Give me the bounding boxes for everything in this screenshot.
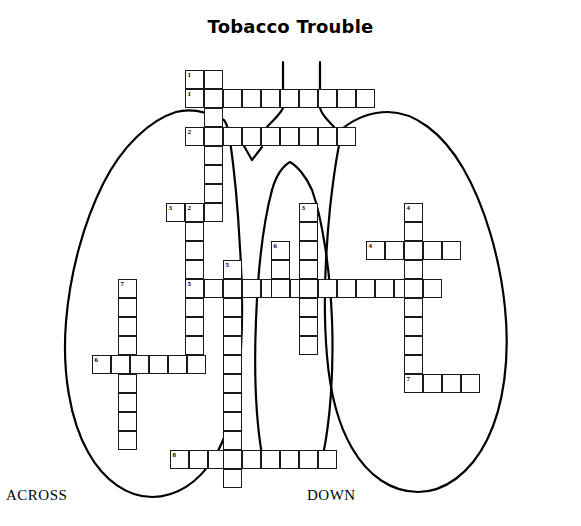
crossword-cell[interactable] — [299, 89, 318, 108]
crossword-cell[interactable] — [404, 241, 423, 260]
crossword-cell[interactable] — [385, 241, 404, 260]
crossword-cell[interactable] — [204, 184, 223, 203]
crossword-cell[interactable] — [404, 317, 423, 336]
crossword-cell[interactable]: 5 — [223, 260, 242, 279]
crossword-cell[interactable]: 3 — [299, 203, 318, 222]
crossword-cell[interactable] — [223, 336, 242, 355]
crossword-cell[interactable] — [185, 298, 204, 317]
crossword-cell[interactable] — [204, 127, 223, 146]
crossword-cell[interactable] — [204, 89, 223, 108]
crossword-cell[interactable]: 5 — [185, 279, 204, 298]
crossword-cell[interactable] — [204, 203, 223, 222]
crossword-cell[interactable] — [337, 127, 356, 146]
crossword-cell[interactable] — [404, 336, 423, 355]
crossword-cell[interactable]: 6 — [92, 355, 111, 374]
crossword-cell[interactable] — [204, 70, 223, 89]
crossword-cell[interactable] — [404, 298, 423, 317]
crossword-cell[interactable] — [242, 450, 261, 469]
crossword-cell[interactable] — [299, 298, 318, 317]
crossword-cell[interactable] — [299, 279, 318, 298]
crossword-cell[interactable] — [118, 431, 137, 450]
crossword-cell[interactable] — [187, 355, 206, 374]
crossword-cell[interactable] — [337, 89, 356, 108]
crossword-cell[interactable] — [299, 260, 318, 279]
crossword-cell[interactable]: 7 — [118, 279, 137, 298]
crossword-cell[interactable] — [261, 450, 280, 469]
crossword-cell[interactable]: 4 — [404, 203, 423, 222]
crossword-cell[interactable] — [223, 298, 242, 317]
crossword-cell[interactable] — [337, 279, 356, 298]
crossword-cell[interactable] — [404, 260, 423, 279]
crossword-cell[interactable] — [356, 279, 375, 298]
crossword-cell[interactable] — [299, 317, 318, 336]
crossword-cell[interactable] — [118, 298, 137, 317]
crossword-cell[interactable] — [118, 393, 137, 412]
crossword-cell[interactable] — [299, 336, 318, 355]
crossword-cell[interactable] — [118, 317, 137, 336]
crossword-cell[interactable] — [185, 317, 204, 336]
crossword-cell[interactable] — [242, 127, 261, 146]
crossword-cell[interactable] — [118, 336, 137, 355]
crossword-cell[interactable]: 1 — [185, 89, 204, 108]
crossword-cell[interactable] — [242, 279, 261, 298]
crossword-cell[interactable] — [223, 127, 242, 146]
crossword-cell[interactable] — [185, 336, 204, 355]
crossword-cell[interactable] — [356, 89, 375, 108]
crossword-cell[interactable]: 7 — [404, 374, 423, 393]
crossword-cell[interactable] — [261, 89, 280, 108]
crossword-cell[interactable] — [280, 450, 299, 469]
crossword-cell[interactable]: 2 — [185, 127, 204, 146]
crossword-cell[interactable] — [204, 279, 223, 298]
crossword-cell[interactable] — [223, 431, 242, 450]
crossword-cell[interactable] — [130, 355, 149, 374]
crossword-cell[interactable] — [118, 374, 137, 393]
crossword-cell[interactable] — [318, 279, 337, 298]
crossword-cell[interactable] — [461, 374, 480, 393]
crossword-cell[interactable] — [118, 412, 137, 431]
crossword-cell[interactable] — [168, 355, 187, 374]
crossword-cell[interactable] — [223, 355, 242, 374]
crossword-cell[interactable] — [280, 89, 299, 108]
crossword-cell[interactable] — [423, 279, 442, 298]
crossword-cell[interactable] — [280, 127, 299, 146]
crossword-cell[interactable] — [223, 89, 242, 108]
crossword-cell[interactable] — [242, 89, 261, 108]
crossword-cell[interactable] — [318, 89, 337, 108]
crossword-cell[interactable] — [442, 241, 461, 260]
crossword-cell[interactable] — [223, 469, 242, 488]
crossword-cell[interactable] — [223, 450, 242, 469]
crossword-cell[interactable] — [299, 450, 318, 469]
crossword-cell[interactable] — [204, 108, 223, 127]
crossword-cell[interactable] — [223, 393, 242, 412]
crossword-cell[interactable] — [318, 450, 337, 469]
crossword-cell[interactable] — [271, 260, 290, 279]
crossword-cell[interactable] — [261, 127, 280, 146]
crossword-cell[interactable] — [189, 450, 208, 469]
crossword-cell[interactable] — [271, 279, 290, 298]
crossword-cell[interactable] — [223, 317, 242, 336]
crossword-cell[interactable] — [223, 279, 242, 298]
crossword-cell[interactable]: 3 — [166, 203, 185, 222]
crossword-cell[interactable]: 1 — [185, 70, 204, 89]
crossword-cell[interactable] — [404, 355, 423, 374]
crossword-cell[interactable] — [299, 241, 318, 260]
crossword-cell[interactable] — [375, 279, 394, 298]
crossword-cell[interactable] — [423, 374, 442, 393]
crossword-cell[interactable] — [404, 279, 423, 298]
crossword-cell[interactable] — [111, 355, 130, 374]
crossword-cell[interactable] — [423, 241, 442, 260]
crossword-cell[interactable] — [204, 146, 223, 165]
crossword-cell[interactable] — [223, 412, 242, 431]
crossword-cell[interactable] — [299, 222, 318, 241]
crossword-cell[interactable] — [185, 241, 204, 260]
crossword-cell[interactable] — [223, 374, 242, 393]
crossword-cell[interactable] — [185, 260, 204, 279]
crossword-cell[interactable] — [204, 165, 223, 184]
crossword-cell[interactable] — [404, 222, 423, 241]
crossword-cell[interactable] — [442, 374, 461, 393]
crossword-cell[interactable]: 2 — [185, 203, 204, 222]
crossword-cell[interactable] — [299, 127, 318, 146]
crossword-cell[interactable] — [149, 355, 168, 374]
crossword-cell[interactable]: 6 — [271, 241, 290, 260]
crossword-cell[interactable]: 4 — [366, 241, 385, 260]
